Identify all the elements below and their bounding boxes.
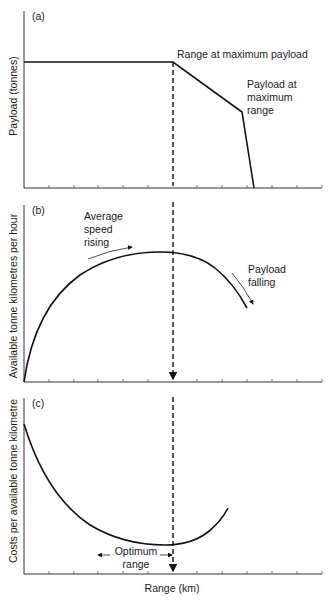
annotation: range	[123, 558, 150, 570]
panel-tag: (b)	[32, 204, 45, 216]
panel-b: (b) Average speed rising Payload falling…	[7, 204, 322, 382]
payload-range-line	[24, 62, 254, 188]
panel-tag: (c)	[32, 397, 44, 409]
panel-tag: (a)	[32, 10, 45, 22]
annotation: Optimum	[115, 545, 158, 557]
panel-a: (a) Range at maximum payload Payload at …	[7, 10, 322, 188]
y-axis-label: Payload (tonnes)	[7, 56, 19, 135]
annotation: falling	[248, 276, 276, 288]
annotation: rising	[84, 236, 109, 248]
x-axis-label: Range (km)	[145, 582, 200, 594]
panel-c: Optimum range (c) Costs per available to…	[7, 397, 322, 594]
annotation: Payload	[248, 263, 286, 275]
tkm-per-hour-curve	[24, 252, 247, 382]
annotation: Payload at	[247, 78, 297, 90]
cost-per-tkm-curve	[24, 424, 228, 545]
figure: (a) Range at maximum payload Payload at …	[0, 0, 330, 601]
speed-rising-arrow	[88, 247, 132, 259]
y-axis-label: Costs per available tonne kilometre	[7, 399, 19, 563]
y-axis-label: Available tonne kilometres per hour	[7, 213, 19, 378]
annotation: range	[247, 104, 274, 116]
annotation: speed	[84, 223, 113, 235]
annotation: maximum	[247, 91, 293, 103]
annotation: Range at maximum payload	[177, 48, 308, 60]
annotation: Average	[84, 210, 123, 222]
